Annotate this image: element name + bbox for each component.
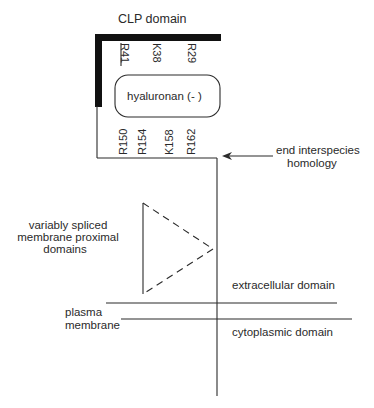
residue-label-r29: R29 [186, 43, 198, 63]
spliced-label-line2: membrane proximal [17, 231, 119, 243]
hyaluronan-label: hyaluronan (- ) [127, 90, 202, 102]
residue-label-r162: R162 [185, 129, 197, 155]
cd44-domain-diagram: CLP domain R41 K38 R29 hyaluronan (- ) R… [0, 0, 374, 408]
clp-domain-title: CLP domain [118, 12, 187, 26]
residue-label-r154: R154 [136, 129, 148, 155]
protein-backbone [97, 106, 217, 396]
n-terminal-residues: R41 K38 R29 [119, 43, 198, 66]
c-terminal-residues: R150 R154 K158 R162 [117, 129, 197, 155]
membrane-label-line1: plasma [65, 306, 103, 318]
residue-label-k158: K158 [163, 129, 175, 155]
homology-label-line1: end interspecies [276, 144, 360, 156]
homology-annotation: end interspecies homology [222, 144, 360, 169]
spliced-domain-triangle [143, 203, 213, 294]
spliced-label-line1: variably spliced [29, 219, 108, 231]
residue-label-k38: K38 [151, 43, 163, 63]
spliced-label: variably spliced membrane proximal domai… [17, 219, 119, 255]
membrane-label-line2: membrane [65, 319, 120, 331]
plasma-membrane [106, 303, 352, 319]
spliced-label-line3: domains [43, 243, 87, 255]
residue-label-r150: R150 [117, 129, 129, 155]
extracellular-domain-label: extracellular domain [232, 279, 335, 291]
homology-label-line2: homology [287, 157, 337, 169]
cytoplasmic-domain-label: cytoplasmic domain [232, 326, 333, 338]
hyaluronan-box: hyaluronan (- ) [115, 75, 220, 117]
